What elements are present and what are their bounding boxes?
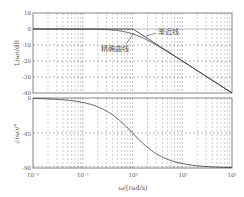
y-tick-label: 10 bbox=[24, 10, 31, 16]
x-axis-label: ω/(rad/s) bbox=[118, 184, 148, 192]
phase-y-ticks: 0 -45 -90 bbox=[22, 95, 31, 171]
x-tick-label: 10² bbox=[227, 172, 236, 178]
magnitude-grid bbox=[33, 13, 232, 93]
y-tick-label: 0 bbox=[28, 26, 32, 32]
y-tick-label: -90 bbox=[22, 165, 31, 171]
phase-y-axis-label: ∠(ω)/° bbox=[13, 123, 21, 144]
y-tick-label: -10 bbox=[22, 42, 31, 48]
x-tick-label: 10⁻² bbox=[27, 172, 39, 178]
asymptote-label: 渐近线 bbox=[158, 27, 179, 36]
y-tick-label: -20 bbox=[22, 58, 31, 64]
x-tick-label: 10⁰ bbox=[128, 172, 138, 178]
x-tick-label: 10¹ bbox=[178, 172, 187, 178]
exact-curve-label: 精确曲线 bbox=[101, 44, 129, 53]
magnitude-y-ticks: 10 0 -10 -20 -30 -40 bbox=[22, 10, 31, 96]
magnitude-y-axis-label: L(ω)/dB bbox=[13, 40, 21, 66]
y-tick-label: -45 bbox=[22, 131, 31, 137]
x-ticks: 10⁻² 10⁻¹ 10⁰ 10¹ 10² bbox=[27, 172, 237, 178]
y-tick-label: -30 bbox=[22, 74, 31, 80]
y-tick-label: 0 bbox=[28, 95, 32, 101]
x-tick-label: 10⁻¹ bbox=[77, 172, 89, 178]
